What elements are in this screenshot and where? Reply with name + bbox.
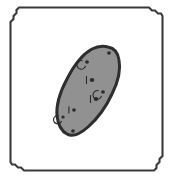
spot-lower-center-dot: [72, 108, 76, 111]
spot-center-eye-dot: [90, 78, 95, 82]
spot-lower-eye-dot: [94, 97, 99, 101]
spot-mid-right-dot: [101, 90, 105, 93]
spot-bottom-tip-dot: [71, 129, 75, 132]
illustration-canvas: [0, 0, 173, 179]
spot-top-right: [107, 51, 111, 54]
spot-lower-left-dot: [61, 115, 64, 118]
spot-upper-left-dot: [85, 60, 89, 63]
spot-top-right-dot: [107, 51, 111, 54]
spot-bottom-tip: [71, 129, 75, 132]
figure-container: [0, 0, 173, 179]
